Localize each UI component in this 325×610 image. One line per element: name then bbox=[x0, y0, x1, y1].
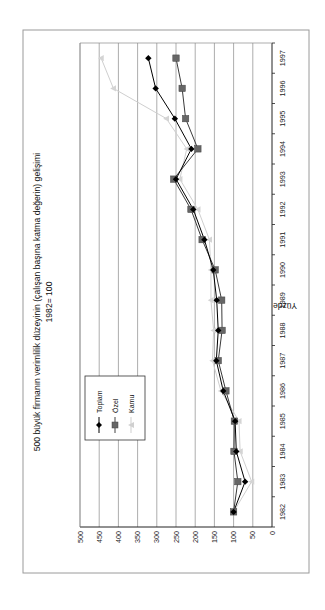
y-tick-label: 500 bbox=[76, 531, 85, 543]
x-tick-label: 1986 bbox=[278, 383, 287, 399]
x-tick-label: 1990 bbox=[278, 262, 287, 278]
y-tick-label: 300 bbox=[152, 531, 161, 543]
x-tick-label: 1985 bbox=[278, 413, 287, 429]
svg-text:Özel: Özel bbox=[112, 398, 119, 413]
x-tick-label: 1993 bbox=[278, 171, 287, 187]
y-tick-label: 50 bbox=[248, 531, 257, 539]
y-tick-label: 400 bbox=[114, 531, 123, 543]
svg-text:Toplam: Toplam bbox=[96, 390, 104, 413]
x-tick-label: 1994 bbox=[278, 141, 287, 157]
x-tick-label: 1991 bbox=[278, 232, 287, 248]
x-tick-label: 1983 bbox=[278, 474, 287, 490]
x-tick-label: 1982 bbox=[278, 504, 287, 520]
y-tick-label: 150 bbox=[210, 531, 219, 543]
y-tick-label: 200 bbox=[191, 531, 200, 543]
data-point-özel bbox=[182, 115, 188, 121]
legend: Toplam Özel Kamu bbox=[85, 376, 145, 440]
data-point-özel bbox=[195, 146, 201, 152]
y-tick-label: 0 bbox=[268, 531, 277, 535]
x-tick-label: 1992 bbox=[278, 201, 287, 217]
square-marker-icon bbox=[112, 422, 118, 428]
y-tick-label: 250 bbox=[172, 531, 181, 543]
chart-title: 500 büyük firmanın verimlilik düzeyinin … bbox=[32, 153, 42, 452]
rotated-line-chart: 500 büyük firmanın verimlilik düzeyinin … bbox=[0, 0, 325, 610]
chart-page: 500 büyük firmanın verimlilik düzeyinin … bbox=[0, 0, 325, 610]
x-tick-label: 1995 bbox=[278, 111, 287, 127]
data-point-özel bbox=[173, 55, 179, 61]
data-point-özel bbox=[179, 85, 185, 91]
data-point-özel bbox=[235, 478, 241, 484]
x-tick-label: 1984 bbox=[278, 443, 287, 459]
x-tick-label: 1997 bbox=[278, 50, 287, 66]
y-tick-label: 350 bbox=[133, 531, 142, 543]
chart-frame bbox=[23, 30, 309, 573]
y-tick-label: 450 bbox=[95, 531, 104, 543]
x-tick-label: 1987 bbox=[278, 353, 287, 369]
y-axis-label: Yüzde bbox=[273, 301, 297, 311]
chart-subtitle: 1982= 100 bbox=[44, 281, 54, 322]
x-tick-label: 1996 bbox=[278, 80, 287, 96]
x-tick-label: 1988 bbox=[278, 322, 287, 338]
y-tick-label: 100 bbox=[229, 531, 238, 543]
svg-text:Kamu: Kamu bbox=[128, 395, 135, 413]
